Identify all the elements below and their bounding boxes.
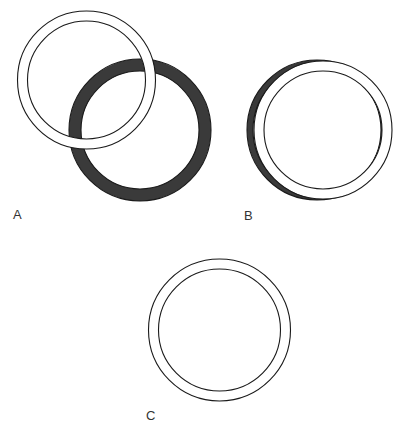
panel-c-light-ring <box>149 259 291 401</box>
panel-c-label: C <box>146 408 155 423</box>
panel-a-dark-ring <box>69 59 211 201</box>
ring-alignment-diagram: A B C <box>0 0 405 429</box>
panel-a-light-ring <box>18 11 156 149</box>
panel-a-label: A <box>13 207 22 222</box>
panel-c: C <box>146 259 291 423</box>
panel-b-light-ring <box>254 61 392 199</box>
panel-a: A <box>13 11 211 222</box>
panel-b-label: B <box>244 208 253 223</box>
panel-b: B <box>244 60 392 223</box>
